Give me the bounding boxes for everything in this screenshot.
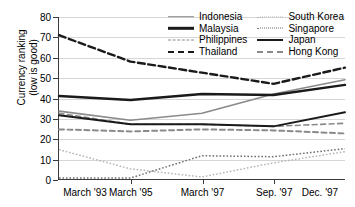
series-line-hong-kong [59, 129, 345, 133]
legend-label: Malaysia [199, 23, 238, 34]
x-axis-tick [131, 179, 132, 184]
legend-label: Japan [288, 34, 315, 45]
legend-label: Hong Kong [288, 46, 338, 57]
y-axis-tick-label: 70 [11, 32, 51, 43]
y-axis-tick [53, 160, 58, 161]
legend-swatch-malaysia [168, 23, 194, 33]
legend-swatch-south-korea [257, 12, 283, 22]
y-axis-tick-label: 50 [11, 73, 51, 84]
legend-swatch-singapore [257, 23, 283, 33]
y-axis-tick-label: 40 [11, 93, 51, 104]
y-axis-tick [53, 119, 58, 120]
x-axis-tick-label: March '97 [181, 187, 225, 198]
y-axis-tick-label: 60 [11, 52, 51, 63]
x-axis-tick-label: March '93 [63, 187, 107, 198]
y-axis-tick [53, 37, 58, 38]
series-line-singapore [59, 149, 345, 178]
legend-swatch-philippines [168, 35, 194, 45]
y-axis-tick [53, 139, 58, 140]
legend-swatch-hong-kong [257, 47, 283, 57]
x-axis-tick [274, 179, 275, 184]
legend-swatch-thailand [168, 47, 194, 57]
legend-item: Malaysia [168, 23, 247, 35]
y-axis-tick-label: 20 [11, 134, 51, 145]
legend-label: Singapore [288, 23, 334, 34]
y-axis-tick [53, 180, 58, 181]
series-line-malaysia [59, 85, 345, 100]
y-axis-tick [53, 99, 58, 100]
legend-label: South Korea [288, 11, 344, 22]
legend-swatch-indonesia [168, 12, 194, 22]
legend-label: Philippines [199, 34, 247, 45]
x-axis-tick [203, 179, 204, 184]
legend-item: Indonesia [168, 11, 247, 23]
y-axis-tick-label: 10 [11, 154, 51, 165]
y-axis-tick [53, 78, 58, 79]
x-axis-tick-label: March '95 [109, 187, 153, 198]
currency-ranking-chart: Currency ranking (low is good) 010203040… [0, 0, 355, 207]
legend-item: Hong Kong [257, 46, 344, 58]
y-axis-tick [53, 58, 58, 59]
legend-item: Thailand [168, 46, 247, 58]
legend-item: Japan [257, 34, 344, 46]
y-axis-tick [53, 17, 58, 18]
legend-item: Singapore [257, 23, 344, 35]
legend: IndonesiaSouth KoreaMalaysiaSingaporePhi… [168, 11, 344, 57]
series-line-south-korea [59, 150, 345, 177]
y-axis-tick-label: 80 [11, 12, 51, 23]
y-axis-tick-label: 0 [11, 175, 51, 186]
legend-swatch-japan [257, 35, 283, 45]
legend-label: Thailand [199, 46, 237, 57]
y-axis-tick-label: 30 [11, 113, 51, 124]
legend-item: South Korea [257, 11, 344, 23]
legend-label: Indonesia [199, 11, 242, 22]
x-axis-tick-label: Dec. '97 [302, 187, 338, 198]
legend-item: Philippines [168, 34, 247, 46]
series-line-indonesia [59, 80, 345, 121]
x-axis-tick-label: Sep. '97 [256, 187, 292, 198]
